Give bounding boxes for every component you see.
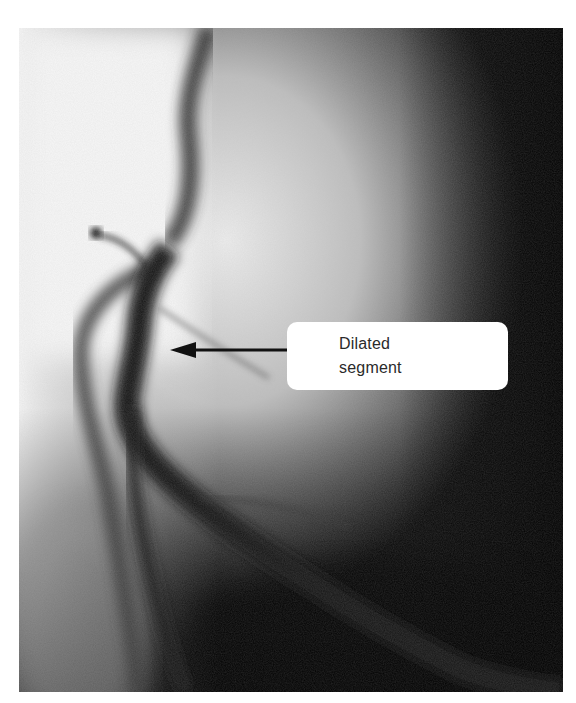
annotation-text: Dilated segment [339, 332, 402, 380]
annotation-label: Dilated segment [287, 322, 508, 390]
arrow-pointer-icon [170, 341, 288, 359]
annotation-line-1: Dilated [339, 332, 402, 356]
angiogram-image: Dilated segment [19, 28, 563, 692]
annotation-line-2: segment [339, 356, 402, 380]
